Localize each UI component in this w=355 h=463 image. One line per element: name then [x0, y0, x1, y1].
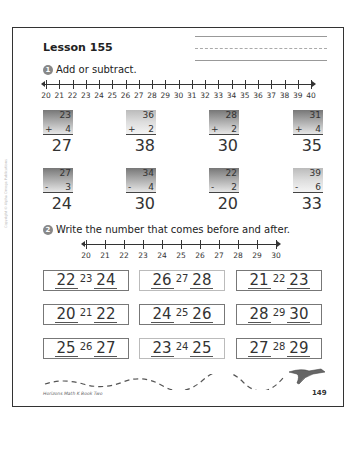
problem-operator: -: [45, 182, 48, 192]
before-answer[interactable]: 26: [151, 273, 174, 289]
number-line-label: 20: [81, 251, 91, 260]
problem-box: 28+2: [209, 110, 239, 134]
before-after-box: 282930: [236, 304, 322, 325]
section2-header: 2 Write the number that comes before and…: [43, 224, 290, 235]
number-line-label: 26: [195, 251, 205, 260]
arrow-right-icon: [277, 241, 281, 247]
number-line-label: 21: [54, 91, 64, 100]
after-answer[interactable]: 23: [287, 273, 310, 289]
number-line-tick: [181, 240, 182, 249]
number-line-label: 27: [134, 91, 144, 100]
number-line-tick: [219, 240, 220, 249]
problem-answer[interactable]: 20: [209, 194, 239, 213]
before-after-box: 222324: [43, 270, 129, 291]
before-answer[interactable]: 22: [55, 273, 78, 289]
problem-bottom-number: 4: [148, 182, 154, 192]
before-after-box: 212223: [236, 270, 322, 291]
before-after-box: 262728: [139, 270, 225, 291]
number-line-label: 29: [252, 251, 262, 260]
after-answer[interactable]: 28: [190, 273, 213, 289]
number-line-label: 31: [187, 91, 197, 100]
section2-badge: 2: [43, 225, 53, 235]
page-number: 149: [312, 389, 327, 397]
number-line-tick: [311, 80, 312, 89]
after-answer[interactable]: 22: [94, 307, 117, 323]
number-line-tick: [59, 80, 60, 89]
line-middle-dashed: [195, 48, 327, 49]
number-line-label: 28: [147, 91, 157, 100]
number-line-label: 26: [121, 91, 131, 100]
bird-icon: [287, 364, 327, 386]
before-answer[interactable]: 23: [151, 341, 174, 357]
number-line-label: 27: [214, 251, 224, 260]
before-answer[interactable]: 20: [55, 307, 78, 323]
number-line-label: 22: [119, 251, 129, 260]
problem-top-number: 28: [226, 110, 237, 120]
given-number: 23: [80, 273, 93, 284]
before-answer[interactable]: 28: [248, 307, 271, 323]
number-line-label: 29: [160, 91, 170, 100]
number-line-label: 25: [107, 91, 117, 100]
worksheet-page: Lesson 155 1 Add or subtract. 2021222324…: [12, 27, 344, 407]
problem-answer[interactable]: 30: [126, 194, 156, 213]
after-answer[interactable]: 24: [94, 273, 117, 289]
before-after-box: 202122: [43, 304, 129, 325]
problem-bottom-number: 4: [315, 124, 321, 134]
before-answer[interactable]: 25: [55, 341, 78, 357]
number-line-tick: [46, 80, 47, 89]
arithmetic-problem: 36+238: [126, 110, 156, 155]
problem-box: 27-3: [43, 168, 73, 192]
problem-answer[interactable]: 38: [126, 136, 156, 155]
problem-box: 31+4: [293, 110, 323, 134]
number-line-label: 35: [240, 91, 250, 100]
problem-answer[interactable]: 27: [43, 136, 73, 155]
number-line-tick: [73, 80, 74, 89]
given-number: 26: [80, 341, 93, 352]
number-line-tick: [200, 240, 201, 249]
problem-top-number: 34: [143, 168, 154, 178]
problem-bottom-number: 2: [148, 124, 154, 134]
number-line-label: 39: [293, 91, 303, 100]
number-line-tick: [143, 240, 144, 249]
problem-rule: [209, 134, 239, 135]
given-number: 25: [176, 307, 189, 318]
after-answer[interactable]: 26: [190, 307, 213, 323]
problem-top-number: 36: [143, 110, 154, 120]
problem-answer[interactable]: 35: [293, 136, 323, 155]
problem-bottom-number: 6: [315, 182, 321, 192]
number-line-tick: [205, 80, 206, 89]
number-line-tick: [105, 240, 106, 249]
number-line-label: 34: [227, 91, 237, 100]
after-answer[interactable]: 30: [287, 307, 310, 323]
after-answer[interactable]: 25: [190, 341, 213, 357]
number-line-label: 30: [271, 251, 281, 260]
problem-bottom-number: 2: [231, 182, 237, 192]
problem-operator: +: [211, 124, 219, 134]
problem-operator: +: [45, 124, 53, 134]
before-answer[interactable]: 27: [248, 341, 271, 357]
problem-top-number: 31: [310, 110, 321, 120]
after-answer[interactable]: 27: [94, 341, 117, 357]
number-line-tick: [276, 240, 277, 249]
number-line-label: 28: [233, 251, 243, 260]
line-top: [195, 36, 327, 37]
number-line-label: 22: [68, 91, 78, 100]
before-after-box: 252627: [43, 338, 129, 359]
number-line-label: 23: [81, 91, 91, 100]
problem-answer[interactable]: 24: [43, 194, 73, 213]
before-answer[interactable]: 21: [248, 273, 271, 289]
number-line-label: 24: [157, 251, 167, 260]
number-line-tick: [258, 80, 259, 89]
number-line-tick: [192, 80, 193, 89]
copyright-notice: Copyright © Alpha Omega Publications: [4, 159, 8, 228]
problem-answer[interactable]: 33: [293, 194, 323, 213]
problem-operator: +: [295, 124, 303, 134]
before-answer[interactable]: 24: [151, 307, 174, 323]
number-line-label: 20: [41, 91, 51, 100]
number-line-label: 40: [306, 91, 316, 100]
after-answer[interactable]: 29: [287, 341, 310, 357]
problem-bottom-number: 2: [231, 124, 237, 134]
number-line-tick: [238, 240, 239, 249]
number-line-tick: [257, 240, 258, 249]
problem-answer[interactable]: 30: [209, 136, 239, 155]
